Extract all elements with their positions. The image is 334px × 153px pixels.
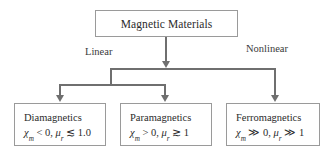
connector-ferromagnetics-drop <box>274 68 276 97</box>
arrowhead-diamagnetics-icon <box>56 95 64 102</box>
mu-symbol: μ <box>162 127 167 138</box>
mu-relation: ≳ 1 <box>172 127 189 138</box>
chi-symbol: χ <box>130 127 135 138</box>
chi-symbol: χ <box>24 127 29 138</box>
node-diamagnetics-formula: χm < 0, μr ≲ 1.0 <box>15 124 91 139</box>
chi-relation: ≫ 0, <box>248 127 271 138</box>
node-ferromagnetics[interactable]: Ferromagnetics χm ≫ 0, μr ≫ 1 <box>226 103 320 146</box>
arrowhead-root-stem-icon <box>162 61 170 68</box>
chi-symbol: χ <box>236 127 241 138</box>
connector-bus-linear <box>59 84 166 86</box>
node-paramagnetics[interactable]: Paramagnetics χm > 0, μr ≳ 1 <box>120 103 212 146</box>
node-magnetic-materials[interactable]: Magnetic Materials <box>95 10 238 37</box>
chi-relation: < 0, <box>36 127 52 138</box>
node-paramagnetics-label: Paramagnetics <box>121 111 191 124</box>
node-magnetic-materials-label: Magnetic Materials <box>121 18 213 30</box>
magnetic-materials-flowchart: Magnetic Materials Linear Nonlinear Diam… <box>0 0 334 153</box>
node-ferromagnetics-label: Ferromagnetics <box>227 111 301 124</box>
mu-subscript: r <box>61 135 64 143</box>
node-ferromagnetics-formula: χm ≫ 0, μr ≫ 1 <box>227 124 304 139</box>
node-diamagnetics-label: Diamagnetics <box>15 111 82 124</box>
mu-subscript: r <box>167 135 170 143</box>
node-diamagnetics[interactable]: Diamagnetics χm < 0, μr ≲ 1.0 <box>14 103 106 146</box>
node-paramagnetics-formula: χm > 0, μr ≳ 1 <box>121 124 189 139</box>
arrowhead-ferromagnetics-icon <box>271 95 279 102</box>
chi-relation: > 0, <box>142 127 158 138</box>
chi-subscript: m <box>135 135 140 143</box>
mu-relation: ≫ 1 <box>284 127 304 138</box>
edge-label-linear: Linear <box>85 46 112 57</box>
edge-label-nonlinear: Nonlinear <box>246 43 288 54</box>
chi-subscript: m <box>241 135 246 143</box>
mu-relation: ≲ 1.0 <box>66 127 91 138</box>
mu-symbol: μ <box>56 127 61 138</box>
connector-bus-top <box>110 68 276 70</box>
mu-subscript: r <box>279 135 282 143</box>
arrowhead-paramagnetics-icon <box>161 95 169 102</box>
connector-linear-drop <box>110 68 112 84</box>
chi-subscript: m <box>29 135 34 143</box>
